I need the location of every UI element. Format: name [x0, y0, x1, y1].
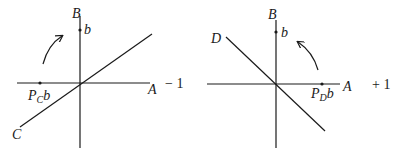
label-b-axis-right: B: [268, 7, 277, 22]
label-pdb: PDb: [310, 86, 334, 103]
right-panel: B b A D PDb + 1: [207, 7, 390, 148]
line-c: [20, 34, 152, 127]
label-c-line: C: [12, 127, 22, 142]
projection-diagram: B b A C PCb − 1 B b A D PDb + 1: [0, 0, 404, 155]
label-b-point-right: b: [281, 25, 288, 40]
rotation-arrow-left: [43, 36, 62, 64]
point-pcb: [38, 81, 41, 84]
label-a-axis-right: A: [342, 79, 352, 94]
label-d-line: D: [210, 31, 221, 46]
sign-label-left: − 1: [165, 76, 183, 91]
rotation-arrow-right: [298, 42, 318, 70]
left-panel: B b A C PCb − 1: [12, 6, 183, 148]
label-b-axis-left: B: [72, 6, 81, 21]
point-b-right: [274, 30, 277, 33]
label-a-axis-left: A: [147, 82, 157, 97]
point-b-left: [78, 28, 81, 31]
label-pcb: PCb: [27, 88, 50, 105]
sign-label-right: + 1: [372, 77, 390, 92]
label-b-point-left: b: [84, 22, 91, 37]
point-pdb: [320, 82, 323, 85]
